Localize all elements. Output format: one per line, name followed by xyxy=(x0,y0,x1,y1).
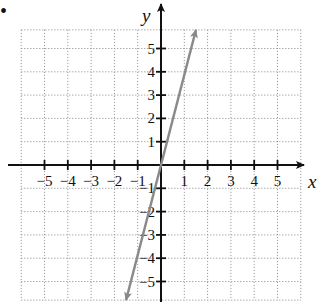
x-tick-label: 5 xyxy=(274,173,282,189)
x-tick-label: −2 xyxy=(106,173,122,189)
y-tick-label: 3 xyxy=(148,87,156,103)
y-tick-label: −5 xyxy=(139,274,155,290)
x-tick-label: 1 xyxy=(181,173,189,189)
y-axis-label: y xyxy=(140,5,151,26)
y-tick-label: 4 xyxy=(148,64,156,80)
coordinate-plane: • −5−4−3−2−112345 −5−4−3−2−112345 x y xyxy=(0,0,323,306)
y-tick-label: 1 xyxy=(148,134,156,150)
x-tick-label: −4 xyxy=(60,173,76,189)
y-tick-label: 2 xyxy=(148,110,156,126)
x-tick-label: 4 xyxy=(250,173,258,189)
x-tick-label: 2 xyxy=(204,173,212,189)
x-tick-label: −3 xyxy=(83,173,99,189)
x-tick-label: −5 xyxy=(37,173,53,189)
x-tick-label: 3 xyxy=(227,173,235,189)
problem-marker: • xyxy=(0,0,7,22)
y-tick-label: −4 xyxy=(139,250,155,266)
x-axis-label: x xyxy=(307,171,317,192)
y-tick-label: 5 xyxy=(148,41,156,57)
